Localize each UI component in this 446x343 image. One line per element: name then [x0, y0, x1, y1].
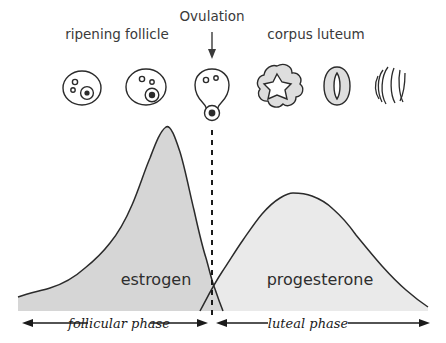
- corpus-luteum-regressing-icon: [324, 67, 350, 105]
- estrogen-label: estrogen: [121, 270, 192, 289]
- ovarian-cycle-figure: ripening follicle Ovulation corpus luteu…: [0, 0, 446, 343]
- ripening-follicle-label: ripening follicle: [65, 26, 169, 42]
- corpus-luteum-label: corpus luteum: [267, 26, 364, 42]
- follicular-phase-label: follicular phase: [67, 316, 170, 331]
- ovulation-label: Ovulation: [179, 8, 244, 24]
- late-ripening-follicle-icon: [126, 69, 166, 105]
- luteal-phase-label: luteal phase: [268, 316, 349, 331]
- ovarian-structures: [63, 64, 405, 120]
- ovulation-arrow: [208, 32, 216, 59]
- early-ripening-follicle-icon: [63, 71, 101, 105]
- diagram-canvas: ripening follicle Ovulation corpus luteu…: [0, 0, 446, 343]
- corpus-albicans-icon: [375, 67, 405, 104]
- ovulating-follicle-icon: [195, 69, 229, 121]
- progesterone-label: progesterone: [267, 270, 374, 289]
- corpus-luteum-mature-icon: [257, 64, 302, 107]
